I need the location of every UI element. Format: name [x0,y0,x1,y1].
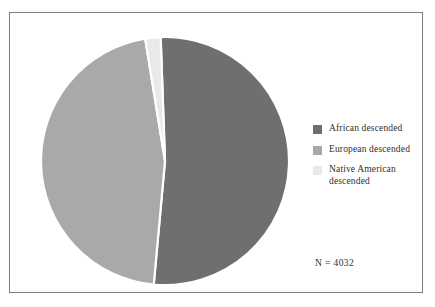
chart-legend: African descended European descended Nat… [313,123,425,196]
legend-item-native-american-descended[interactable]: Native American descended [313,164,425,187]
legend-label-native-american-descended: Native American descended [329,164,396,187]
legend-swatch-african-descended [313,125,322,134]
legend-swatch-native-american-descended [313,166,322,175]
legend-label-african-descended: African descended [329,123,403,135]
legend-item-african-descended[interactable]: African descended [313,123,425,135]
legend-item-european-descended[interactable]: European descended [313,144,425,156]
pie-slice[interactable] [41,39,165,285]
legend-label-european-descended: European descended [329,144,410,156]
pie-chart [40,33,290,289]
figure-canvas: African descended European descended Nat… [0,0,435,307]
pie-slice-group [41,37,289,285]
legend-swatch-european-descended [313,146,322,155]
chart-frame-border: African descended European descended Nat… [9,12,423,293]
sample-size-annotation: N = 4032 [315,258,354,268]
pie-chart-svg [40,33,290,289]
pie-slice[interactable] [154,37,289,285]
